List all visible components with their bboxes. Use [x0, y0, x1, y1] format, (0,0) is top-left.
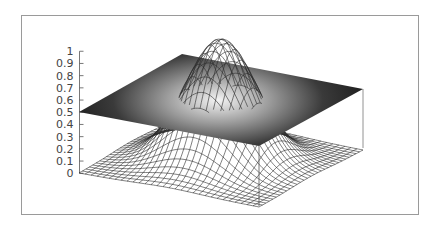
- mesh-line: [247, 148, 351, 205]
- z-tick-label: 0.1: [56, 155, 74, 168]
- z-tick-label: 0.5: [56, 106, 74, 119]
- mesh-line: [89, 167, 269, 201]
- z-tick-label: 0: [67, 167, 74, 180]
- mesh-line: [93, 165, 273, 199]
- plane-surface: [79, 54, 363, 146]
- mesh-line: [79, 173, 259, 207]
- mesh-line: [82, 171, 262, 205]
- z-tick-label: 0.4: [56, 118, 74, 131]
- z-tick-label: 1: [67, 45, 74, 58]
- z-axis: 00.10.20.30.40.50.60.70.80.91: [56, 45, 84, 180]
- z-tick-label: 0.8: [56, 70, 74, 83]
- z-tick-label: 0.3: [56, 131, 74, 144]
- surface-plot: 00.10.20.30.40.50.60.70.80.91: [0, 0, 442, 226]
- z-tick-label: 0.2: [56, 143, 74, 156]
- z-tick-label: 0.6: [56, 94, 74, 107]
- z-tick-label: 0.9: [56, 57, 74, 70]
- z-tick-label: 0.7: [56, 82, 74, 95]
